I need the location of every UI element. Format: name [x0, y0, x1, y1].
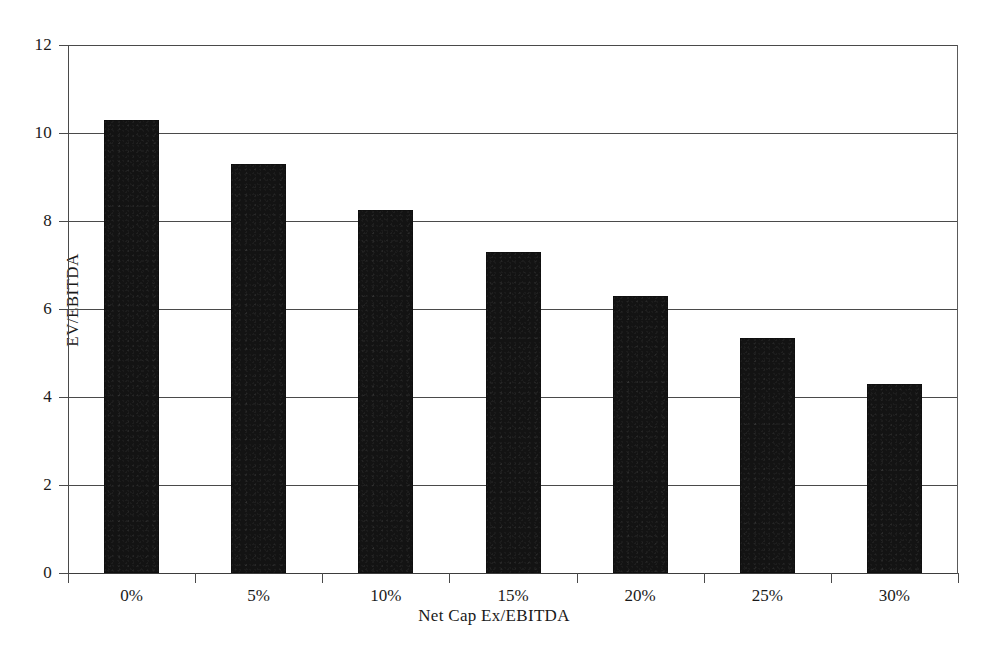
y-tick-mark [59, 309, 68, 310]
x-tick-label: 30% [854, 586, 934, 606]
bar [231, 164, 286, 573]
bar-chart-figure: EV/EBITDA 024681012 0%5%10%15%20%25%30% … [0, 0, 988, 652]
y-tick-label: 8 [8, 212, 52, 229]
y-tick-mark [59, 221, 68, 222]
y-tick-label: 10 [8, 124, 52, 141]
y-tick-mark [59, 573, 68, 574]
x-tick-label: 20% [600, 586, 680, 606]
y-tick-mark [59, 133, 68, 134]
bar [104, 120, 159, 573]
x-tick-mark [704, 573, 705, 583]
x-axis-line [68, 573, 958, 574]
x-tick-mark [322, 573, 323, 583]
bar [867, 384, 922, 573]
x-tick-mark [449, 573, 450, 583]
x-tick-mark [958, 573, 959, 583]
bar-series [68, 45, 958, 573]
y-tick-label: 12 [8, 36, 52, 53]
y-tick-label: 4 [8, 388, 52, 405]
x-tick-label: 5% [219, 586, 299, 606]
x-tick-label: 0% [92, 586, 172, 606]
x-tick-mark [831, 573, 832, 583]
x-tick-mark [195, 573, 196, 583]
y-tick-mark [59, 45, 68, 46]
y-tick-label: 2 [8, 476, 52, 493]
bar [740, 338, 795, 573]
y-tick-mark [59, 485, 68, 486]
y-tick-label: 6 [8, 300, 52, 317]
x-tick-mark [577, 573, 578, 583]
y-tick-mark [59, 397, 68, 398]
x-tick-mark [68, 573, 69, 583]
bar [358, 210, 413, 573]
x-tick-label: 10% [346, 586, 426, 606]
y-tick-label: 0 [8, 564, 52, 581]
x-tick-label: 15% [473, 586, 553, 606]
x-tick-label: 25% [727, 586, 807, 606]
x-axis-title: Net Cap Ex/EBITDA [0, 606, 988, 626]
bar [486, 252, 541, 573]
bar [613, 296, 668, 573]
